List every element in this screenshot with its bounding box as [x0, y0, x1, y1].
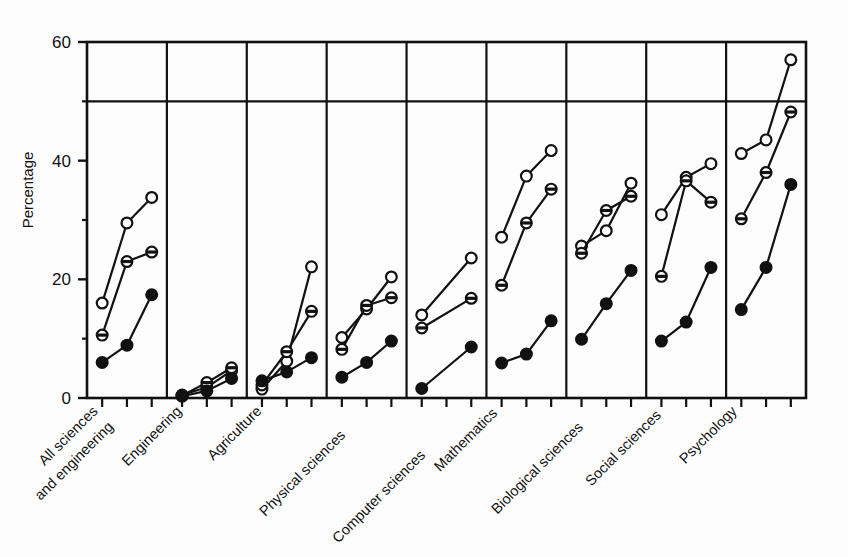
data-point-open [146, 192, 157, 203]
x-category-label: Biological sciences [488, 419, 586, 517]
data-point-filled [146, 289, 157, 300]
x-category-label-line: Agriculture [204, 403, 264, 463]
data-point-half [681, 175, 692, 186]
data-point-open [736, 148, 747, 159]
data-point-half [785, 107, 796, 118]
data-point-filled [736, 304, 747, 315]
data-point-half [546, 184, 557, 195]
data-point-filled [706, 262, 717, 273]
x-category-label: All sciencesand engineering [16, 403, 116, 503]
chart-figure: 0204060PercentageAll sciencesand enginee… [0, 0, 848, 557]
data-point-open [466, 253, 477, 264]
data-point-filled [361, 357, 372, 368]
data-point-half [496, 280, 507, 291]
data-point-filled [761, 262, 772, 273]
data-point-half [386, 292, 397, 303]
data-point-open [785, 54, 796, 65]
plot-frame [87, 42, 806, 398]
y-tick-label: 0 [62, 389, 71, 408]
data-line-segment [422, 347, 472, 389]
data-point-filled [466, 342, 477, 353]
data-point-half [626, 191, 637, 202]
data-point-half [281, 346, 292, 357]
data-point-filled [626, 265, 637, 276]
data-line-segment [686, 267, 711, 322]
data-point-filled [97, 357, 108, 368]
data-point-open [601, 225, 612, 236]
data-line-segment [582, 304, 607, 340]
data-point-half [146, 247, 157, 258]
data-line-segment [422, 298, 472, 328]
data-line-segment [741, 173, 766, 219]
data-point-open [626, 178, 637, 189]
x-category-label-line: Physical sciences [256, 427, 348, 519]
data-point-half [226, 362, 237, 373]
data-point-open [122, 218, 133, 229]
data-point-filled [576, 334, 587, 345]
data-point-half [97, 330, 108, 341]
data-point-filled [546, 315, 557, 326]
x-category-label: Agriculture [204, 403, 264, 463]
chart-canvas: 0204060PercentageAll sciencesand enginee… [0, 0, 848, 557]
y-axis-title: Percentage [19, 152, 36, 229]
data-point-open [306, 261, 317, 272]
data-point-filled [226, 373, 237, 384]
data-point-filled [785, 179, 796, 190]
x-category-label: Computer sciences [329, 447, 428, 546]
data-point-half [576, 248, 587, 259]
data-point-open [546, 145, 557, 156]
data-point-half [601, 205, 612, 216]
data-point-filled [257, 375, 268, 386]
x-category-label-line: Mathematics [431, 405, 500, 474]
data-line-segment [741, 267, 766, 309]
data-point-half [706, 197, 717, 208]
data-line-segment [766, 60, 791, 140]
data-point-filled [656, 336, 667, 347]
data-point-half [466, 293, 477, 304]
data-point-half [761, 167, 772, 178]
data-point-open [496, 232, 507, 243]
data-point-open [656, 209, 667, 220]
y-tick-label: 40 [52, 152, 71, 171]
data-point-filled [416, 383, 427, 394]
data-point-filled [681, 317, 692, 328]
x-category-label: Engineering [119, 403, 185, 469]
data-point-filled [521, 349, 532, 360]
x-category-label: Social sciences [582, 407, 664, 489]
data-line-segment [342, 305, 367, 349]
x-category-label: Physical sciences [256, 427, 348, 519]
x-category-label-line: Computer sciences [329, 447, 428, 546]
data-point-half [416, 323, 427, 334]
x-category-label-line: Psychology [676, 402, 740, 466]
data-point-filled [281, 366, 292, 377]
data-point-open [386, 272, 397, 283]
data-point-open [706, 158, 717, 169]
data-point-open [416, 310, 427, 321]
data-point-half [306, 306, 317, 317]
data-point-filled [306, 352, 317, 363]
data-point-filled [122, 340, 133, 351]
data-line-segment [422, 258, 472, 315]
data-line-segment [127, 295, 152, 345]
x-category-label-line: Engineering [119, 403, 185, 469]
data-line-segment [766, 184, 791, 267]
x-category-label: Psychology [676, 402, 740, 466]
data-point-filled [177, 391, 188, 402]
data-point-half [656, 271, 667, 282]
y-tick-label: 60 [52, 33, 71, 52]
x-category-label: Mathematics [431, 405, 500, 474]
data-point-half [521, 218, 532, 229]
data-point-half [336, 344, 347, 355]
data-point-filled [601, 298, 612, 309]
data-point-open [761, 135, 772, 146]
data-point-filled [496, 358, 507, 369]
data-point-half [361, 300, 372, 311]
data-point-open [97, 298, 108, 309]
data-point-filled [201, 385, 212, 396]
data-point-half [122, 256, 133, 267]
data-point-filled [336, 372, 347, 383]
data-point-filled [386, 336, 397, 347]
x-category-label-line: Biological sciences [488, 419, 586, 517]
y-tick-label: 20 [52, 270, 71, 289]
x-category-label-line: Social sciences [582, 407, 664, 489]
